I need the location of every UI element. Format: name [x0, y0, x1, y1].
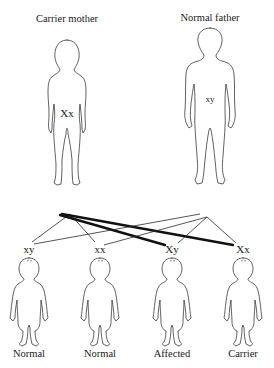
father-title: Normal father [180, 12, 240, 23]
child4-figure-icon [224, 258, 262, 346]
inheritance-lines [32, 214, 236, 245]
child4-genotype: Xx [236, 243, 250, 255]
child3-label: Affected [154, 348, 191, 359]
line-mother-to-child1 [32, 214, 70, 242]
child2-figure-icon [81, 258, 119, 346]
child2-genotype: xx [95, 243, 107, 255]
line-father-to-child1 [34, 214, 200, 244]
child1-figure-icon [10, 258, 48, 346]
mother-title: Carrier mother [36, 13, 99, 24]
line-father-to-child4 [207, 217, 236, 243]
father-figure-icon [185, 28, 236, 184]
child2-label: Normal [84, 348, 116, 359]
child1-genotype: xy [24, 243, 36, 255]
child3-figure-icon [153, 258, 191, 346]
mother-genotype: Xx [60, 107, 74, 119]
child1-label: Normal [13, 348, 45, 359]
inheritance-diagram: Carrier mother Normal father Xx xy xy xx… [0, 0, 274, 368]
child4-label: Carrier [228, 348, 258, 359]
child3-genotype: Xy [165, 243, 179, 255]
father-genotype: xy [206, 94, 216, 104]
